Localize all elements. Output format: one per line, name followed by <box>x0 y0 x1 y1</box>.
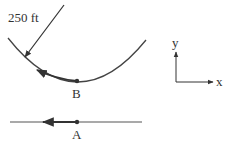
point-a-label: A <box>72 127 82 142</box>
x-axis-label: x <box>216 74 223 89</box>
radius-label: 250 ft <box>8 10 39 25</box>
point-b <box>75 79 79 83</box>
y-axis-label: y <box>172 35 179 50</box>
curved-path <box>8 38 146 82</box>
diagram-canvas: 250 ft B A y x <box>0 0 227 142</box>
point-a <box>75 120 79 124</box>
point-b-label: B <box>72 86 81 101</box>
